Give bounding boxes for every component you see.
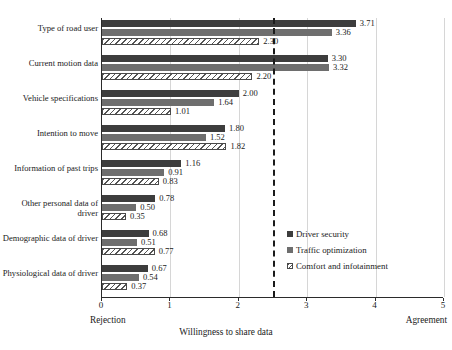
bar <box>102 213 126 220</box>
bar <box>102 64 329 71</box>
bar-value-label: 2.20 <box>256 72 271 81</box>
legend-item-label: Traffic optimization <box>296 245 367 255</box>
category-label: Current motion data <box>0 58 98 68</box>
bar <box>102 73 252 80</box>
bar <box>102 178 159 185</box>
category-label: Intention to move <box>0 128 98 138</box>
x-axis-title: Willingness to share data <box>0 327 452 337</box>
category-label: Vehicle specifications <box>0 93 98 103</box>
bar-value-label: 1.52 <box>210 133 225 142</box>
bar <box>102 274 139 281</box>
x-tick-label-5: 5 <box>441 300 446 310</box>
bar <box>102 125 225 132</box>
bar <box>102 108 171 115</box>
bar <box>102 29 332 36</box>
axis-endpoint-right-label: Agreement <box>406 315 447 325</box>
bar-value-label: 0.78 <box>159 194 174 203</box>
bar <box>102 239 137 246</box>
bar-value-label: 0.37 <box>131 282 146 291</box>
category-label: Information of past trips <box>0 163 98 173</box>
bar <box>102 195 155 202</box>
x-tick-label-0: 0 <box>99 300 104 310</box>
bar-value-label: 1.16 <box>185 159 200 168</box>
bar <box>102 248 155 255</box>
bar <box>102 283 127 290</box>
bar <box>102 143 226 150</box>
x-tick-label-3: 3 <box>304 300 309 310</box>
bar-value-label: 1.80 <box>229 124 244 133</box>
x-tick-mark-5 <box>443 298 444 301</box>
bar-value-label: 0.51 <box>141 238 156 247</box>
legend-item[interactable]: Driver security <box>287 229 388 239</box>
bar <box>102 99 214 106</box>
bar-value-label: 1.01 <box>175 107 190 116</box>
bar <box>102 265 148 272</box>
reference-line-2-5 <box>273 18 275 297</box>
legend-swatch-icon <box>287 247 293 253</box>
bar <box>102 90 239 97</box>
plot-area: 3.713.362.303.303.322.202.001.641.011.80… <box>101 18 443 298</box>
x-tick-label-2: 2 <box>236 300 241 310</box>
x-tick-mark-1 <box>169 298 170 301</box>
chart-container: 3.713.362.303.303.322.202.001.641.011.80… <box>0 0 452 350</box>
legend-swatch-icon <box>287 263 293 269</box>
bar <box>102 204 136 211</box>
x-tick-mark-2 <box>238 298 239 301</box>
chart-legend: Driver securityTraffic optimizationComfo… <box>287 229 388 271</box>
bar <box>102 160 181 167</box>
x-tick-mark-4 <box>375 298 376 301</box>
bar-value-label: 0.35 <box>130 212 145 221</box>
bar <box>102 20 356 27</box>
x-tick-label-1: 1 <box>167 300 172 310</box>
legend-item-label: Driver security <box>296 229 349 239</box>
axis-endpoint-left-label: Rejection <box>90 315 126 325</box>
bar-value-label: 0.77 <box>159 247 174 256</box>
bar-value-label: 3.36 <box>336 28 351 37</box>
bar-value-label: 0.83 <box>163 177 178 186</box>
category-label: Demographic data of driver <box>0 233 98 243</box>
bar-value-label: 2.30 <box>263 37 278 46</box>
category-label: Type of road user <box>0 23 98 33</box>
legend-swatch-icon <box>287 231 293 237</box>
bar-value-label: 1.64 <box>218 98 233 107</box>
category-label: Physiological data of driver <box>0 268 98 278</box>
bar-value-label: 3.71 <box>360 19 375 28</box>
legend-item[interactable]: Traffic optimization <box>287 245 388 255</box>
x-tick-mark-0 <box>101 298 102 301</box>
bar <box>102 55 328 62</box>
legend-item[interactable]: Comfort and infotainment <box>287 261 388 271</box>
x-tick-mark-3 <box>306 298 307 301</box>
bar <box>102 38 259 45</box>
bar-value-label: 2.00 <box>243 89 258 98</box>
gridline-5 <box>444 18 445 297</box>
bar <box>102 169 164 176</box>
bar <box>102 134 206 141</box>
bar-value-label: 3.32 <box>333 63 348 72</box>
bar <box>102 230 149 237</box>
legend-item-label: Comfort and infotainment <box>296 261 388 271</box>
x-tick-label-4: 4 <box>372 300 377 310</box>
category-label: Other personal data of driver <box>0 198 98 218</box>
bar-value-label: 1.82 <box>230 142 245 151</box>
